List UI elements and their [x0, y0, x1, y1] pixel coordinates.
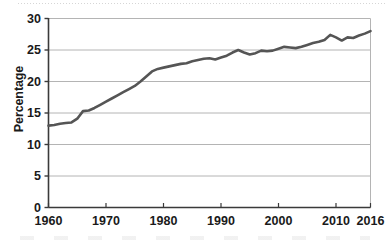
y-tick-label-10: 10: [8, 138, 41, 152]
x-tick-label-2010: 2010: [322, 214, 350, 228]
y-tick-label-25: 25: [8, 43, 41, 57]
x-tick-label-1970: 1970: [92, 214, 120, 228]
y-tick-label-20: 20: [8, 75, 41, 89]
chart-figure: Percentage 051015202530 1960197019801990…: [0, 0, 388, 246]
line-chart-plot: [0, 0, 388, 246]
x-tick-label-2000: 2000: [265, 214, 293, 228]
gridlines-group: [49, 19, 371, 208]
data-series-line: [49, 31, 371, 126]
x-tick-label-2016: 2016: [357, 214, 385, 228]
y-tick-label-15: 15: [8, 106, 41, 120]
y-tick-label-5: 5: [8, 169, 41, 183]
x-tick-label-1960: 1960: [35, 214, 63, 228]
x-tick-label-1980: 1980: [150, 214, 178, 228]
y-tick-label-30: 30: [8, 12, 41, 26]
x-tick-label-1990: 1990: [207, 214, 235, 228]
y-tick-label-0: 0: [8, 201, 41, 215]
